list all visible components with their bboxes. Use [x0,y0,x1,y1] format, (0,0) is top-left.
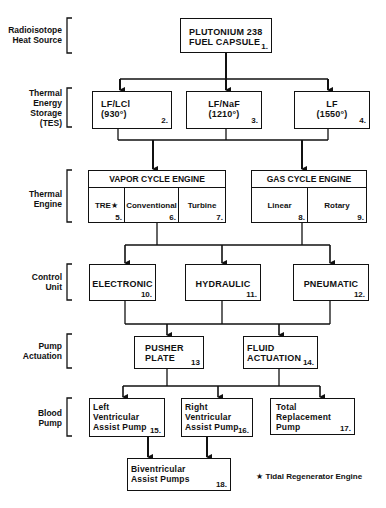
node-text: Rotary [308,201,366,210]
node-number: 18. [216,480,227,489]
node-text: Conventional [125,201,178,210]
node-number: 14. [303,358,314,367]
node-number: 4. [359,116,366,125]
node-number: 17. [340,424,351,433]
level-label-pump-actuation: Pump Actuation [4,341,62,361]
node-rotary: Rotary 9. [307,187,366,222]
node-text: Linear [252,201,307,210]
node-hydraulic: HYDRAULIC 11. [185,264,261,301]
node-number: 2. [161,116,168,125]
node-text: LF/LCl (930°) [101,99,130,119]
node-text: PUSHER PLATE [145,343,184,363]
node-text: HYDRAULIC [186,279,260,289]
node-number: 1. [261,42,268,51]
node-number: 9. [357,213,364,222]
node-right-ventricular-assist-pump: Right Ventricular Assist Pump 16. [181,398,253,437]
level-label-tes: Thermal Energy Storage (TES) [4,88,62,128]
gas-engine-title: GAS CYCLE ENGINE [252,171,366,188]
node-fluid-actuation: FLUID ACTUATION 14. [243,336,318,369]
node-tre: TRE★ 5. [89,187,124,222]
node-text: Left Ventricular Assist Pump [93,402,147,432]
node-pusher-plate: PUSHER PLATE 13 [134,336,204,369]
node-number: 5. [115,213,122,222]
level-label-thermal-engine: Thermal Engine [4,189,62,209]
node-gas-cycle-engine: GAS CYCLE ENGINE Linear 8. Rotary 9. [251,170,367,223]
node-electronic: ELECTRONIC 10. [89,264,156,301]
node-lf: LF (1550°) 4. [294,91,370,129]
node-text: Turbine [179,201,225,210]
node-number: 12. [354,290,365,299]
level-label-heat-source: Radioisotope Heat Source [4,25,62,45]
node-turbine: Turbine 7. [178,187,225,222]
node-text: LF (1550°) [295,99,369,119]
node-left-ventricular-assist-pump: Left Ventricular Assist Pump 15. [89,398,165,437]
node-number: 16. [238,426,249,435]
node-text: Total Replacement Pump [276,402,331,432]
node-text: Biventricular Assist Pumps [131,464,190,484]
node-lf-naf: LF/NaF (1210°) 3. [186,91,262,129]
node-text: ELECTRONIC [90,279,155,289]
level-label-blood-pump: Blood Pump [4,408,62,428]
node-text: FLUID ACTUATION [247,343,301,363]
node-linear: Linear 8. [252,187,307,222]
node-number: 7. [216,213,223,222]
node-text: PLUTONIUM 238 FUEL CAPSULE [189,27,262,47]
node-number: 3. [251,116,258,125]
node-number: 10. [141,290,152,299]
node-text: PNEUMATIC [294,279,368,289]
vapor-engine-title: VAPOR CYCLE ENGINE [89,171,225,188]
node-pneumatic: PNEUMATIC 12. [293,264,369,301]
node-fuel-capsule: PLUTONIUM 238 FUEL CAPSULE 1. [180,18,272,53]
node-conventional: Conventional 6. [124,187,178,222]
node-vapor-cycle-engine: VAPOR CYCLE ENGINE TRE★ 5. Conventional … [88,170,226,223]
node-lf-lcl: LF/LCl (930°) 2. [92,91,172,129]
node-number: 6. [169,213,176,222]
node-number: 15. [150,426,161,435]
node-total-replacement-pump: Total Replacement Pump 17. [270,398,355,435]
level-label-control-unit: Control Unit [4,272,62,292]
node-number: 13 [191,358,200,367]
node-text: LF/NaF (1210°) [187,99,261,119]
node-biventricular-assist-pumps: Biventricular Assist Pumps 18. [127,458,231,491]
node-text: TRE★ [89,201,124,210]
node-number: 11. [246,290,257,299]
footnote-tidal-regenerator-engine: ★ Tidal Regenerator Engine [256,472,362,481]
node-text: Right Ventricular Assist Pump [185,402,239,432]
node-number: 8. [298,213,305,222]
